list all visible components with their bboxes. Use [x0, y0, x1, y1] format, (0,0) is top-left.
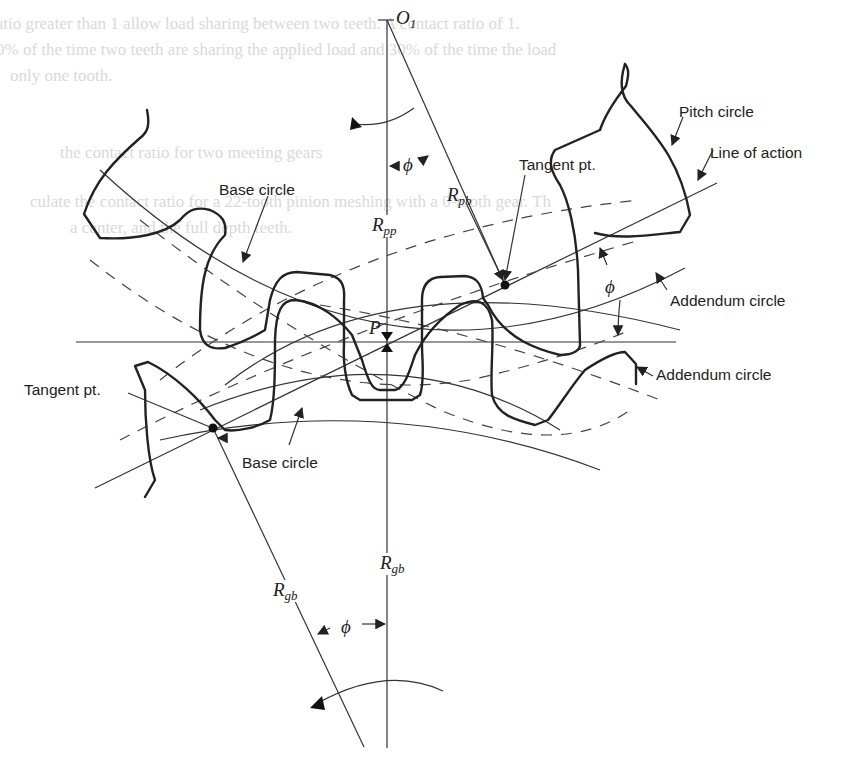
pitch-circle-label: Pitch circle	[679, 104, 754, 120]
o1-label: O1	[396, 8, 416, 30]
p-arrow-down	[381, 332, 393, 341]
phi-bottom-left-arrow	[318, 628, 330, 634]
pitch-arc-1	[225, 303, 680, 385]
p-label: P	[369, 318, 381, 337]
rotation-arrow-bottom	[310, 696, 325, 710]
upper-tangent-point	[501, 281, 510, 290]
r-pb-leader	[467, 205, 503, 280]
addendum-dash-3	[160, 200, 640, 380]
addendum-circle-lower-label: Addendum circle	[656, 367, 771, 383]
phi-right-bottom-arrow	[618, 300, 620, 335]
phi-top-label: ϕ	[403, 155, 413, 174]
addendum-lower-leader	[637, 367, 653, 376]
lower-gear-outline	[135, 300, 636, 497]
base-circle-lower-label: Base circle	[242, 455, 318, 471]
addendum-dash-4	[120, 240, 640, 440]
base-circle-lower-leader	[289, 408, 302, 445]
addendum-circle-upper-label: Addendum circle	[670, 293, 785, 309]
line-of-action-label: Line of action	[710, 145, 802, 161]
addendum-dash-2	[90, 260, 630, 385]
tangent-pt-upper-label: Tangent pt.	[519, 157, 596, 173]
tangent-upper-leader	[505, 175, 525, 280]
upper-gear-outline	[84, 64, 628, 400]
pitch-circle-leader	[672, 117, 683, 145]
r-gb-left-label: Rgb	[273, 580, 298, 602]
pitch-arc-2	[160, 421, 600, 470]
r-pb-label: Rpb	[447, 185, 472, 207]
tangent-pt-lower-label: Tangent pt.	[24, 382, 101, 398]
pinion-base-circle-arc	[100, 170, 685, 330]
base-circle-upper-label: Base circle	[219, 182, 295, 198]
phi-bottom-label: ϕ	[341, 617, 351, 636]
phi-right-label: ϕ	[605, 277, 615, 296]
phi-top-right-arrow	[420, 156, 428, 162]
upper-gear-tooth-right	[595, 64, 690, 237]
line-of-action	[95, 183, 717, 488]
r-pb-line	[387, 20, 505, 285]
r-pp-label: Rpp	[372, 215, 397, 237]
lower-tangent-point	[209, 424, 218, 433]
base-circle-upper-leader	[243, 196, 268, 262]
r-gb-center-label: Rgb	[380, 553, 405, 575]
rotation-arc-top	[355, 108, 414, 125]
rotation-arrow-top	[350, 117, 362, 130]
rotation-arc-bottom	[318, 680, 443, 703]
gear-mesh-diagram: ratio greater than 1 allow load sharing …	[0, 0, 856, 773]
